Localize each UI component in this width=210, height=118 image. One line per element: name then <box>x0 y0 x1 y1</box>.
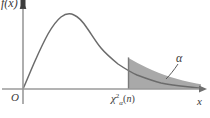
alpha-leader-line <box>166 64 178 79</box>
close-paren: ) <box>131 93 134 104</box>
y-axis-label: f(x) <box>1 0 18 9</box>
y-axis-cap-marker <box>21 0 26 8</box>
chi-square-distribution-figure: f(x) x O α χ2α(n) <box>0 0 210 118</box>
density-curve <box>23 14 201 89</box>
x-axis-arrowhead <box>199 85 207 92</box>
origin-label: O <box>11 92 19 103</box>
critical-value-tick-label: χ2α(n) <box>111 93 135 107</box>
x-axis-label: x <box>197 96 202 107</box>
alpha-annotation-label: α <box>176 52 182 64</box>
